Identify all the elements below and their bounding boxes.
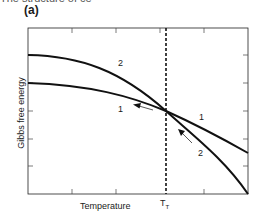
transition-temperature-label: TT — [160, 198, 169, 210]
x-axis-label: Temperature — [80, 201, 131, 211]
arrow-curve-1 — [139, 106, 153, 110]
curve-1-label-right: 1 — [199, 112, 204, 122]
y-ticks — [28, 55, 248, 166]
y-axis-label: Gibbs free energy — [16, 58, 26, 168]
chart-plot — [0, 0, 258, 217]
arrow-head-1 — [133, 103, 141, 109]
x-ticks — [72, 28, 204, 194]
plot-frame — [28, 28, 248, 194]
tt-subscript: T — [166, 204, 170, 210]
curve-2 — [28, 55, 248, 194]
curve-2-label-lower: 2 — [198, 148, 203, 158]
curve-1 — [28, 83, 248, 153]
curve-1-label-left: 1 — [118, 104, 123, 114]
curve-2-label-upper: 2 — [118, 58, 123, 68]
arrow-curve-2 — [182, 133, 192, 143]
